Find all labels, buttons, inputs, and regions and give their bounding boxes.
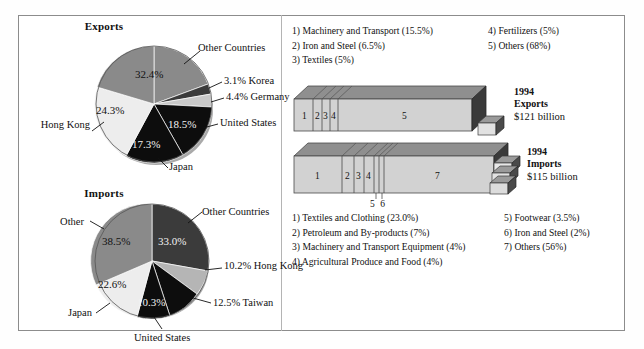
svg-text:5: 5 bbox=[402, 111, 407, 121]
imports-legend-column-2: 5) Footwear (3.5%) 6) Iron and Steel (2%… bbox=[504, 211, 590, 255]
imports-label-united-states: United States bbox=[134, 333, 190, 344]
imports-legend-item: 4) Agricultural Produce and Food (4%) bbox=[292, 255, 465, 270]
imports-legend-item: 1) Textiles and Clothing (23.0%) bbox=[292, 211, 465, 226]
exports-label-other-countries: Other Countries bbox=[198, 43, 265, 54]
svg-text:24.3%: 24.3% bbox=[96, 104, 124, 116]
svg-text:4: 4 bbox=[366, 171, 371, 181]
imports-bar-year: 1994 bbox=[527, 146, 578, 158]
imports-legend: 1) Textiles and Clothing (23.0%) 2) Petr… bbox=[292, 211, 622, 273]
svg-text:3: 3 bbox=[356, 171, 361, 181]
imports-pie-title: Imports bbox=[0, 187, 235, 199]
exports-bar-year: 1994 bbox=[514, 86, 565, 98]
imports-legend-column-1: 1) Textiles and Clothing (23.0%) 2) Petr… bbox=[292, 211, 465, 269]
exports-pie-chart: Exports bbox=[18, 15, 280, 180]
imports-label-taiwan: 12.5% Taiwan bbox=[213, 298, 273, 309]
exports-bar-caption: 1994 Exports $121 billion bbox=[514, 86, 565, 123]
svg-text:7: 7 bbox=[435, 171, 440, 181]
imports-pie-chart: Imports bbox=[18, 185, 280, 331]
svg-text:4: 4 bbox=[331, 111, 336, 121]
svg-text:3: 3 bbox=[323, 111, 328, 121]
imports-legend-item: 3) Machinery and Transport Equipment (4%… bbox=[292, 240, 465, 255]
svg-text:32.4%: 32.4% bbox=[135, 68, 163, 80]
figure-root: Exports bbox=[0, 0, 644, 349]
imports-legend-item: 6) Iron and Steel (2%) bbox=[504, 226, 590, 241]
svg-text:22.6%: 22.6% bbox=[98, 278, 126, 290]
svg-text:33.0%: 33.0% bbox=[158, 235, 186, 247]
exports-label-united-states: United States bbox=[220, 118, 276, 129]
svg-text:17.3%: 17.3% bbox=[132, 138, 160, 150]
exports-bar-amount: $121 billion bbox=[514, 111, 565, 123]
exports-label-korea: 3.1% Korea bbox=[224, 76, 274, 87]
svg-text:1: 1 bbox=[302, 111, 307, 121]
svg-text:2: 2 bbox=[345, 171, 350, 181]
exports-label-hong-kong: Hong Kong bbox=[14, 120, 90, 131]
imports-bar-segment-56-label: 5 6 bbox=[370, 199, 386, 209]
imports-legend-item: 5) Footwear (3.5%) bbox=[504, 211, 590, 226]
imports-bar-kind: Imports bbox=[527, 158, 578, 170]
imports-label-japan: Japan bbox=[14, 308, 92, 319]
imports-bar-3d bbox=[294, 143, 520, 194]
imports-legend-item: 2) Petroleum and By-products (7%) bbox=[292, 226, 465, 241]
exports-bar-kind: Exports bbox=[514, 98, 565, 110]
svg-text:38.5%: 38.5% bbox=[102, 235, 130, 247]
svg-text:1: 1 bbox=[315, 171, 320, 181]
imports-legend-item: 7) Others (56%) bbox=[504, 240, 590, 255]
imports-bar-amount: $115 billion bbox=[527, 171, 578, 183]
imports-label-other-countries: Other Countries bbox=[202, 207, 269, 218]
exports-label-germany: 4.4% Germany bbox=[226, 92, 290, 103]
svg-text:18.5%: 18.5% bbox=[168, 118, 196, 130]
exports-label-japan: Japan bbox=[169, 162, 193, 173]
exports-pie-title: Exports bbox=[0, 20, 235, 32]
bars-panel: 1) Machinery and Transport (15.5%) 2) Ir… bbox=[282, 15, 625, 331]
imports-bar-caption: 1994 Imports $115 billion bbox=[527, 146, 578, 183]
imports-label-other: Other bbox=[16, 217, 84, 228]
svg-text:10.3%: 10.3% bbox=[137, 296, 165, 308]
svg-text:2: 2 bbox=[315, 111, 320, 121]
pie-panel: Exports bbox=[18, 15, 280, 331]
